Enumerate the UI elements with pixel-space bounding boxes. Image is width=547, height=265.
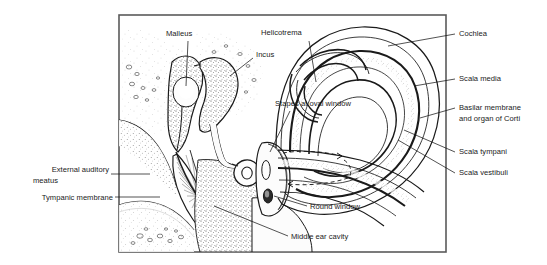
label-round-window: Round window [310, 202, 361, 211]
label-scala-vestibuli: Scala vestibuli [459, 168, 508, 177]
label-stapes-at-oval-window: Stapes at oval window [275, 99, 351, 108]
label-basilar-membrane-line2: and organ of Corti [459, 114, 520, 123]
label-basilar-membrane-line1: Basilar membrane [459, 103, 521, 112]
label-malleus: Malleus [166, 29, 192, 38]
label-scala-tympani: Scala tympani [459, 147, 507, 156]
label-middle-ear-cavity: Middle ear cavity [291, 232, 348, 241]
label-cochlea: Cochlea [459, 29, 488, 38]
label-incus: Incus [256, 50, 274, 59]
label-helicotrema: Helicotrema [261, 28, 302, 37]
ear-anatomy-figure: Malleus Incus Helicotrema Stapes at oval… [0, 0, 547, 265]
label-external-auditory-meatus-line2: meatus [33, 176, 58, 185]
ear-anatomy-illustration: Malleus Incus Helicotrema Stapes at oval… [0, 0, 547, 265]
label-scala-media: Scala media [459, 74, 502, 83]
label-tympanic-membrane: Tympanic membrane [42, 193, 113, 202]
label-external-auditory-meatus-line1: External auditory [52, 165, 110, 174]
round-window-opening [263, 189, 272, 203]
